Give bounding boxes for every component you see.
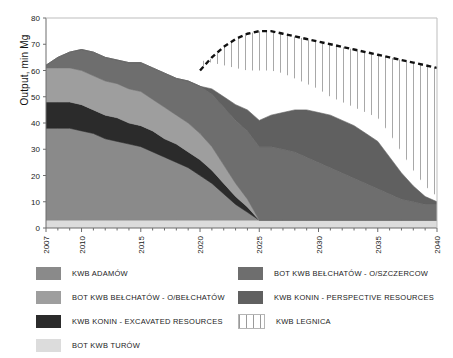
y-tick-label: 70 — [31, 40, 40, 49]
legend-item-belchatow-obelchatow[interactable]: BOT KWB BEŁCHATÓW - O/BEŁCHATÓW — [36, 288, 246, 306]
x-tick-label: 2035 — [374, 235, 383, 253]
legend-swatch-kwb-adamow — [36, 267, 61, 280]
x-tick-label: 2007 — [42, 235, 51, 253]
x-tick-label: 2025 — [255, 235, 264, 253]
legend-label-belchatow-obelchatow: BOT KWB BEŁCHATÓW - O/BEŁCHATÓW — [72, 293, 225, 302]
chart-figure: Output, min Mg 01020304050607080 2007201… — [0, 0, 453, 358]
y-tick-label: 0 — [36, 224, 41, 233]
y-tick-label: 10 — [31, 198, 40, 207]
legend-label-kwb-turow: BOT KWB TURÓW — [72, 341, 140, 350]
y-tick-label: 50 — [31, 93, 40, 102]
legend-swatch-belchatow-obelchatow — [36, 291, 61, 304]
legend-label-konin-excavated: KWB KONIN - EXCAVATED RESOURCES — [72, 317, 223, 326]
y-tick-label: 80 — [31, 14, 40, 23]
legend-swatch-konin-excavated — [36, 315, 61, 328]
y-tick-label: 40 — [31, 119, 40, 128]
legend-item-kwb-adamow[interactable]: KWB ADAMÓW — [36, 264, 246, 282]
y-tick-label: 20 — [31, 172, 40, 181]
legend-label-konin-perspective: KWB KONIN - PERSPECTIVE RESOURCES — [274, 293, 434, 302]
y-tick-label: 30 — [31, 145, 40, 154]
x-tick-label: 2040 — [433, 235, 442, 253]
legend-swatch-belchatow-oszczercow — [238, 267, 263, 280]
legend-item-belchatow-oszczercow[interactable]: BOT KWB BEŁCHATÓW - O/SZCZERCOW — [238, 264, 453, 282]
x-tick-label: 2010 — [78, 235, 87, 253]
stacked-area-chart: 01020304050607080 2007201020152020202520… — [0, 0, 453, 262]
x-tick-label: 2030 — [315, 235, 324, 253]
legend-item-kwb-turow[interactable]: BOT KWB TURÓW — [36, 336, 246, 354]
x-tick-label: 2015 — [137, 235, 146, 253]
legend-label-kwb-legnica: KWB LEGNICA — [276, 317, 331, 326]
x-tick-label: 2020 — [196, 235, 205, 253]
chart-legend: KWB ADAMÓW BOT KWB BEŁCHATÓW - O/BEŁCHAT… — [36, 264, 448, 356]
legend-swatch-kwb-turow — [36, 339, 61, 352]
area-series-bot-kwb-tur-w — [46, 220, 437, 228]
legend-column-right: BOT KWB BEŁCHATÓW - O/SZCZERCOW KWB KONI… — [238, 264, 453, 336]
legend-item-konin-excavated[interactable]: KWB KONIN - EXCAVATED RESOURCES — [36, 312, 246, 330]
legend-swatch-konin-perspective — [238, 291, 263, 304]
y-tick-label: 60 — [31, 67, 40, 76]
y-axis-ticks: 01020304050607080 — [31, 14, 46, 233]
legend-item-kwb-legnica[interactable]: KWB LEGNICA — [238, 312, 453, 330]
legend-item-konin-perspective[interactable]: KWB KONIN - PERSPECTIVE RESOURCES — [238, 288, 453, 306]
legend-label-belchatow-oszczercow: BOT KWB BEŁCHATÓW - O/SZCZERCOW — [274, 269, 428, 278]
legend-column-left: KWB ADAMÓW BOT KWB BEŁCHATÓW - O/BEŁCHAT… — [36, 264, 246, 358]
x-axis-ticks: 20072010201520202025203020352040 — [42, 228, 442, 254]
legend-label-kwb-adamow: KWB ADAMÓW — [72, 269, 128, 278]
legend-swatch-kwb-legnica — [238, 314, 265, 329]
